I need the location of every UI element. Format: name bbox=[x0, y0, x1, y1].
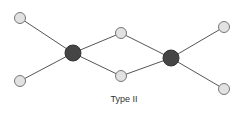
leaf-node-l1 bbox=[15, 13, 26, 24]
leaf-node-l2 bbox=[15, 76, 26, 87]
hub-node-h1 bbox=[65, 45, 81, 61]
edge-h2-r1 bbox=[171, 27, 224, 58]
nodes bbox=[15, 13, 230, 95]
edge-l2-h1 bbox=[20, 53, 73, 81]
edge-h2-r2 bbox=[171, 58, 224, 89]
diagram-label: Type II bbox=[0, 94, 243, 104]
leaf-node-r1 bbox=[219, 22, 230, 33]
leaf-node-m1 bbox=[116, 28, 127, 39]
hub-node-h2 bbox=[163, 50, 179, 66]
leaf-node-m2 bbox=[116, 71, 127, 82]
leaf-node-r2 bbox=[219, 84, 230, 95]
edge-l1-h1 bbox=[20, 18, 73, 53]
